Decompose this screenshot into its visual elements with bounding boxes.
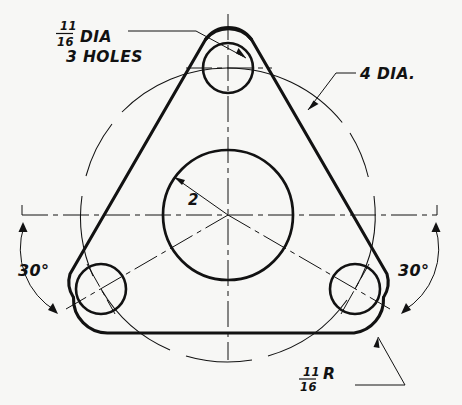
fillet-radius-suffix: R <box>323 365 335 383</box>
bore-radius-label: 2 <box>188 191 199 209</box>
angle-left-dimension <box>19 205 59 314</box>
hole-dia-numerator: 11 <box>60 19 77 33</box>
fillet-radius-numerator: 11 <box>303 365 320 379</box>
hole-dia-note: 3 HOLES <box>66 48 143 66</box>
hole-dia-label: 11 16 DIA 3 HOLES <box>56 19 143 66</box>
bolt-circle-callout <box>308 73 356 110</box>
hole-dia-denominator: 16 <box>57 35 74 49</box>
bore-radius-callout <box>174 177 228 215</box>
angle-right-dimension <box>401 205 441 314</box>
engineering-drawing-canvas: 11 16 DIA 3 HOLES 4 DIA. 2 11 16 R 30° <box>0 0 462 405</box>
fillet-radius-label: 11 16 R <box>299 365 335 394</box>
fillet-radius-callout <box>355 337 405 385</box>
fillet-radius-denominator: 16 <box>300 380 317 394</box>
angle-left-label: 30° <box>18 261 49 280</box>
bolt-circle-label: 4 DIA. <box>359 65 415 83</box>
angle-right-label: 30° <box>398 261 429 280</box>
hole-dia-suffix: DIA <box>80 28 112 46</box>
